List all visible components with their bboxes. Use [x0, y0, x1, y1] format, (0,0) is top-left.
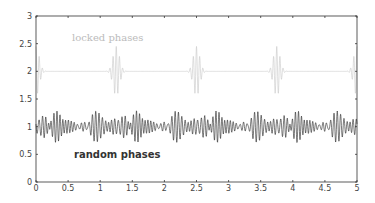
x-tick-label: 1: [98, 184, 103, 193]
y-tick-label: 2.5: [19, 40, 32, 49]
x-tick-label: 3.5: [254, 184, 267, 193]
y-tick-label: 1.5: [19, 95, 32, 104]
annotation-random-phases: random phases: [74, 149, 160, 160]
y-tick-label: 1: [27, 123, 32, 132]
y-tick-label: 0: [27, 178, 32, 187]
y-tick-label: 3: [27, 12, 32, 21]
x-tick-label: 2: [162, 184, 167, 193]
annotation-locked-phases: locked phases: [72, 32, 143, 43]
axes: 00.511.522.533.544.5500.511.522.53: [19, 12, 359, 193]
x-tick-label: 4: [290, 184, 295, 193]
series-locked-phases: [36, 46, 357, 93]
chart: 00.511.522.533.544.5500.511.522.53 locke…: [0, 0, 375, 203]
y-tick-label: 2: [27, 67, 32, 76]
x-tick-label: 1.5: [126, 184, 139, 193]
x-tick-label: 0: [33, 184, 38, 193]
x-tick-label: 3: [226, 184, 231, 193]
plot-area: [36, 46, 357, 142]
y-tick-label: 0.5: [19, 150, 32, 159]
x-tick-label: 0.5: [62, 184, 75, 193]
x-tick-label: 2.5: [190, 184, 203, 193]
x-tick-label: 5: [354, 184, 359, 193]
x-tick-label: 4.5: [319, 184, 332, 193]
series-random-phases: [36, 111, 357, 143]
